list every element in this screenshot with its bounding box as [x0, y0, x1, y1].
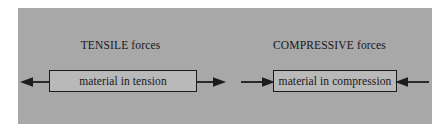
material-in-compression-box: material in compression [273, 70, 397, 92]
material-in-tension-text: material in tension [79, 75, 167, 88]
tension-left-arrow-icon [20, 75, 50, 89]
compression-diagram-group: COMPRESSIVE forces material in compressi… [225, 8, 432, 124]
tensile-forces-label: TENSILE forces [17, 39, 224, 52]
compression-left-arrow-icon [241, 75, 275, 89]
tension-right-arrow-icon [196, 75, 226, 89]
compressive-forces-label: COMPRESSIVE forces [226, 39, 433, 52]
tension-diagram-group: TENSILE forces material in tension [18, 8, 225, 124]
material-in-compression-text: material in compression [279, 75, 392, 88]
diagram-panel: TENSILE forces material in tension COMPR… [18, 8, 432, 124]
figure-canvas: TENSILE forces material in tension COMPR… [0, 0, 443, 135]
material-in-tension-box: material in tension [49, 70, 197, 92]
compression-right-arrow-icon [395, 75, 429, 89]
